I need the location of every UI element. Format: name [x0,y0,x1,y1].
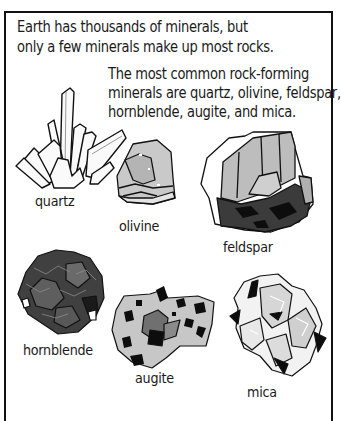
intro-line-1: Earth has thousands of minerals, but [17,18,248,36]
common-line-1: The most common rock-forming [108,65,309,83]
quartz-crystal-cluster-icon [14,84,124,199]
mica-rock-icon [230,268,328,378]
augite-label: augite [135,370,174,386]
olivine-label: olivine [119,218,159,234]
mica-label: mica [247,384,277,400]
intro-line-2: only a few minerals make up most rocks. [17,38,274,56]
hornblende-rock-icon [16,248,108,336]
common-minerals-text: The most common rock-forming minerals ar… [108,65,341,122]
feldspar-label: feldspar [223,239,273,255]
quartz-label: quartz [35,193,74,209]
hornblende-label: hornblende [23,342,93,358]
olivine-rock-icon [113,140,177,206]
augite-rock-icon [110,290,214,370]
feldspar-rock-icon [199,128,319,238]
common-line-2: minerals are quartz, olivine, feldspar, [108,84,341,102]
intro-text: Earth has thousands of minerals, but onl… [17,17,274,57]
common-line-3: hornblende, augite, and mica. [108,103,296,121]
